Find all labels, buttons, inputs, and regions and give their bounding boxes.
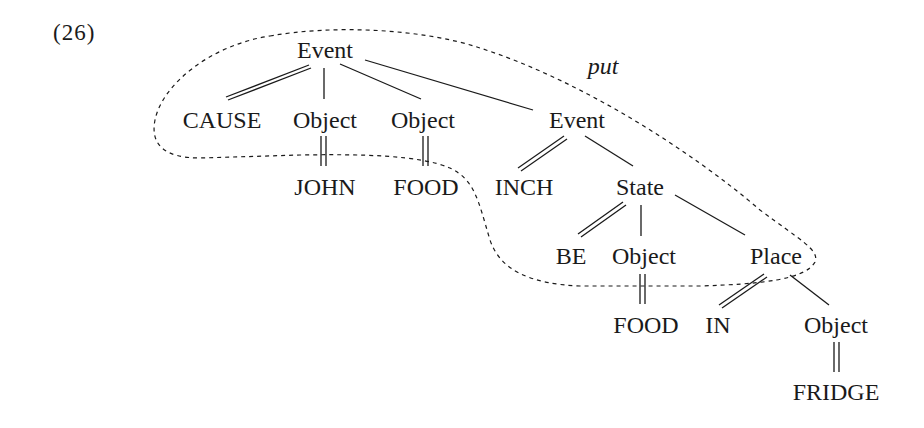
conceptual-structure-diagram: (26) put Event CAUSE Object Object Event… xyxy=(0,0,924,428)
node-inch: INCH xyxy=(495,174,554,200)
put-label: put xyxy=(588,53,619,79)
node-food-1: FOOD xyxy=(393,174,458,200)
node-object-4: Object xyxy=(804,312,868,338)
example-number: (26) xyxy=(53,20,95,46)
edge-event2-state xyxy=(585,136,633,166)
edge-place-object4 xyxy=(790,275,829,305)
edge-event2-inch xyxy=(518,136,567,171)
put-enclosure-dashed-outline xyxy=(154,30,816,286)
node-food-2: FOOD xyxy=(613,312,678,338)
edge-place-in xyxy=(719,274,767,308)
edge-event-cause xyxy=(226,65,311,100)
node-john: JOHN xyxy=(294,174,355,200)
tree-edges xyxy=(0,0,924,428)
edge-state-place xyxy=(675,195,745,235)
edge-object4-fridge xyxy=(834,342,839,372)
node-object-3: Object xyxy=(612,243,676,269)
edge-event-object2 xyxy=(340,64,421,99)
node-place: Place xyxy=(750,243,802,269)
edge-state-be xyxy=(578,202,626,237)
node-object-2: Object xyxy=(391,107,455,133)
node-in: IN xyxy=(705,312,730,338)
node-state: State xyxy=(616,174,664,200)
node-object-1: Object xyxy=(293,107,357,133)
node-be: BE xyxy=(556,243,587,269)
node-event-2: Event xyxy=(549,107,605,133)
edge-object3-food xyxy=(640,274,645,304)
node-cause: CAUSE xyxy=(183,107,262,133)
node-fridge: FRIDGE xyxy=(793,379,880,405)
edge-object1-john xyxy=(321,136,326,166)
node-root-event: Event xyxy=(297,37,353,63)
